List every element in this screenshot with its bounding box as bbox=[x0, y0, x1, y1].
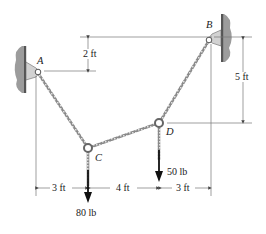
ring-D bbox=[155, 119, 163, 127]
cable-CD bbox=[91, 124, 156, 147]
load-label-80lb: 80 lb bbox=[76, 208, 96, 218]
point-label-C: C bbox=[95, 153, 102, 164]
dim-label-4ft: 4 ft bbox=[116, 183, 130, 193]
dim-label-5ft: 5 ft bbox=[234, 72, 250, 82]
dim-label-2ft: 2 ft bbox=[82, 49, 98, 59]
pin-B bbox=[206, 37, 212, 43]
cable-diagram bbox=[0, 0, 266, 234]
pin-A bbox=[35, 69, 41, 75]
ring-C bbox=[84, 144, 92, 152]
dim-label-3ft-right: 3 ft bbox=[176, 183, 190, 193]
point-label-D: D bbox=[166, 127, 174, 138]
load-label-50lb: 50 lb bbox=[167, 167, 187, 177]
dim-label-3ft-left: 3 ft bbox=[52, 183, 66, 193]
cable-DB bbox=[161, 42, 208, 120]
cables bbox=[38, 42, 208, 186]
point-label-A: A bbox=[37, 56, 43, 67]
point-label-B: B bbox=[206, 20, 212, 31]
cable-AC bbox=[38, 73, 86, 145]
